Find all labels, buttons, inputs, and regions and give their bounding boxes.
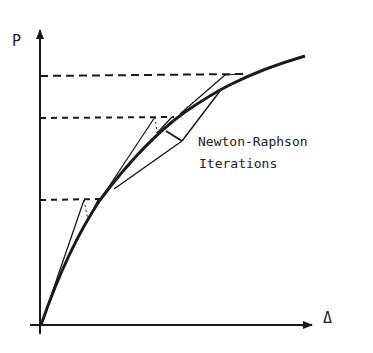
- diagram-canvas: P Δ Newton-Raphson Iterations: [0, 0, 373, 353]
- annotation-pointer-tick: [166, 131, 182, 141]
- load-level-1-dashed: [40, 199, 100, 200]
- load-level-3-dashed: [40, 74, 244, 76]
- x-axis-label: Δ: [323, 309, 332, 327]
- annotation-text-line2: Iterations: [199, 156, 277, 171]
- annotation-text-line1: Newton-Raphson: [198, 134, 308, 149]
- y-axis-label: P: [12, 32, 21, 50]
- tangent-step-2: [98, 117, 155, 203]
- tangent-step-1: [41, 200, 84, 325]
- annotation-pointer-lower: [114, 141, 182, 189]
- tangent-step-2b: [155, 117, 157, 133]
- tangent-step-1b: [84, 200, 88, 220]
- tangent-step-1c: [88, 200, 98, 220]
- load-displacement-curve: [41, 56, 305, 325]
